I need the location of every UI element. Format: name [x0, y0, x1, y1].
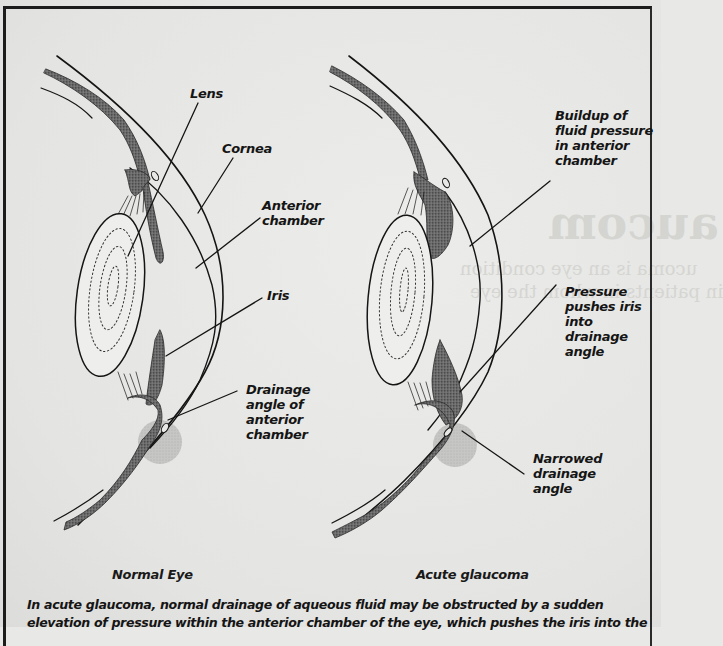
label-narrowed-drainage-angle: Narrowed drainage angle	[533, 451, 602, 496]
label-iris: Iris	[267, 288, 289, 303]
leader-anterior-chamber	[196, 218, 260, 268]
figure-caption: In acute glaucoma, normal drainage of aq…	[27, 596, 667, 632]
sclera-band-bottom	[64, 395, 162, 530]
lens-shape	[66, 209, 154, 381]
lens-shape	[361, 213, 440, 388]
leader-buildup	[470, 181, 550, 246]
leader-cornea	[198, 158, 233, 213]
sclera-band-top	[330, 66, 428, 180]
label-lens: Lens	[190, 86, 223, 101]
normal-eye-drawing	[41, 56, 262, 530]
sclera-band-bottom	[332, 401, 454, 538]
leader-iris	[166, 298, 262, 356]
label-drainage-angle: Drainage angle of anterior chamber	[246, 382, 310, 442]
label-pressure-pushes-iris: Pressure pushes iris into drainage angle	[565, 284, 641, 359]
label-cornea: Cornea	[222, 141, 272, 156]
panel-title-acute-glaucoma: Acute glaucoma	[416, 567, 529, 582]
label-anterior-chamber: Anterior chamber	[262, 198, 324, 228]
caption-line-2: elevation of pressure within the anterio…	[27, 614, 667, 632]
panel-title-normal-eye: Normal Eye	[112, 567, 193, 582]
sclera-band-top	[44, 69, 150, 180]
iris-bottom	[146, 330, 164, 405]
leader-drainage-angle	[168, 391, 237, 420]
caption-line-1: In acute glaucoma, normal drainage of aq…	[27, 596, 667, 614]
acute-eye-drawing	[330, 56, 556, 538]
label-buildup-fluid-pressure: Buildup of fluid pressure in anterior ch…	[555, 108, 653, 168]
